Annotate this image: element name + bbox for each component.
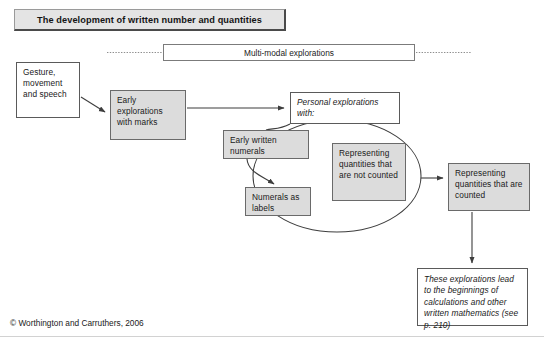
page-title: The development of written number and qu… bbox=[14, 9, 286, 31]
node-early-explorations-with-marks: Early explorations with marks bbox=[110, 90, 186, 140]
edge-gesture-to-early bbox=[81, 97, 105, 112]
node-representing-quantities-not-counted: Representing quantities that are not cou… bbox=[332, 143, 406, 201]
node-personal-explorations-with: Personal explorations with: bbox=[290, 92, 400, 124]
diagram-canvas: The development of written number and qu… bbox=[0, 0, 544, 347]
copyright-notice: © Worthington and Carruthers, 2006 bbox=[10, 318, 144, 328]
node-conclusion: These explorations lead to the beginning… bbox=[417, 268, 528, 326]
edge-earlywritten-to-labels bbox=[247, 159, 274, 184]
node-gesture-movement-speech: Gesture, movement and speech bbox=[16, 62, 80, 118]
node-early-written-numerals: Early written numerals bbox=[223, 130, 309, 159]
bottom-divider bbox=[0, 336, 544, 337]
multi-modal-banner: Multi-modal explorations bbox=[163, 44, 415, 61]
node-representing-quantities-counted: Representing quantities that are counted bbox=[448, 163, 530, 211]
node-numerals-as-labels: Numerals as labels bbox=[245, 187, 311, 216]
